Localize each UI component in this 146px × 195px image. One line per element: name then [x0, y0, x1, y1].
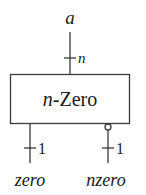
zero-width-label: 1 — [38, 140, 46, 157]
block-title-prefix: n — [43, 88, 53, 110]
n-zero-block-diagram: a n n-Zero 1 zero 1 nzero — [0, 0, 146, 195]
nzero-output-label: nzero — [86, 170, 125, 190]
zero-output-label: zero — [14, 170, 45, 190]
output-port-zero: 1 zero — [14, 124, 46, 190]
block-title: n-Zero — [43, 88, 97, 110]
input-width-label: n — [78, 50, 86, 66]
input-port-a: a n — [64, 7, 86, 74]
inversion-bubble-icon — [105, 124, 111, 130]
nzero-width-label: 1 — [116, 140, 124, 157]
output-port-nzero: 1 nzero — [86, 124, 125, 190]
n-zero-block: n-Zero — [11, 75, 130, 124]
input-label: a — [65, 7, 75, 28]
block-title-suffix: -Zero — [53, 88, 97, 110]
